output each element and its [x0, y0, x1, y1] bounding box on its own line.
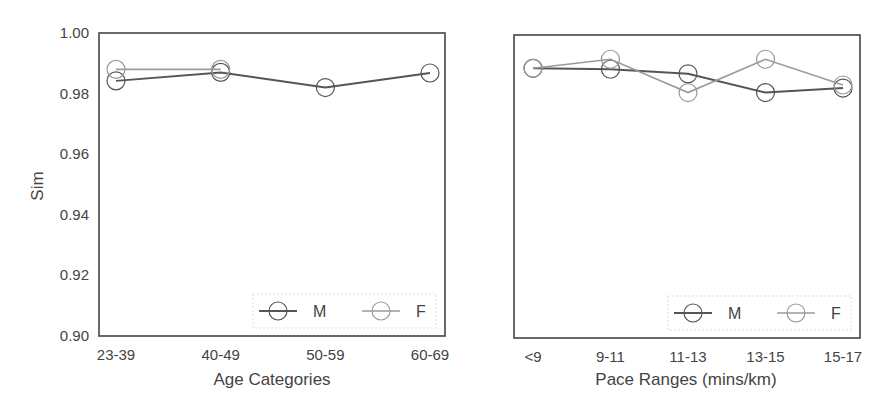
legend: MF — [253, 294, 436, 328]
x-axis-tick-labels: <99-1111-1313-1515-17 — [524, 348, 862, 365]
y-axis-label: Sim — [28, 171, 47, 200]
legend: MF — [668, 296, 851, 330]
x-tick-label: 50-59 — [306, 346, 344, 363]
series-line — [533, 68, 843, 92]
series-lines — [107, 60, 439, 96]
y-tick-label: 0.90 — [60, 327, 89, 344]
y-tick-label: 0.98 — [60, 85, 89, 102]
x-axis-label: Age Categories — [213, 370, 330, 389]
pace-ranges-chart: <99-1111-1313-1515-17 Pace Ranges (mins/… — [514, 35, 862, 389]
y-tick-label: 0.96 — [60, 145, 89, 162]
legend-label: M — [728, 305, 741, 322]
x-axis-tick-labels: 23-3940-4950-5960-69 — [97, 346, 449, 363]
plot-area-frame — [514, 35, 860, 338]
y-tick-label: 0.92 — [60, 266, 89, 283]
figure: 0.900.920.940.960.981.00 23-3940-4950-59… — [0, 0, 887, 414]
series-lines — [524, 50, 852, 101]
legend-label: F — [831, 305, 841, 322]
x-tick-label: 23-39 — [97, 346, 135, 363]
x-tick-label: 13-15 — [746, 348, 784, 365]
y-tick-label: 1.00 — [60, 24, 89, 41]
x-tick-label: 11-13 — [669, 348, 706, 365]
y-tick-label: 0.94 — [60, 206, 89, 223]
age-categories-chart: 0.900.920.940.960.981.00 23-3940-4950-59… — [28, 24, 449, 389]
series-m — [524, 59, 852, 101]
x-tick-label: 60-69 — [411, 346, 449, 363]
x-tick-label: 15-17 — [824, 348, 862, 365]
series-m — [107, 63, 439, 96]
series-f — [524, 50, 852, 101]
y-axis-tick-labels: 0.900.920.940.960.981.00 — [60, 24, 89, 344]
x-tick-label: 40-49 — [201, 346, 239, 363]
legend-label: M — [313, 303, 326, 320]
x-tick-label: 9-11 — [596, 348, 625, 365]
series-line — [116, 72, 430, 87]
legend-label: F — [416, 303, 426, 320]
x-axis-label: Pace Ranges (mins/km) — [595, 370, 776, 389]
x-tick-label: <9 — [524, 348, 541, 365]
